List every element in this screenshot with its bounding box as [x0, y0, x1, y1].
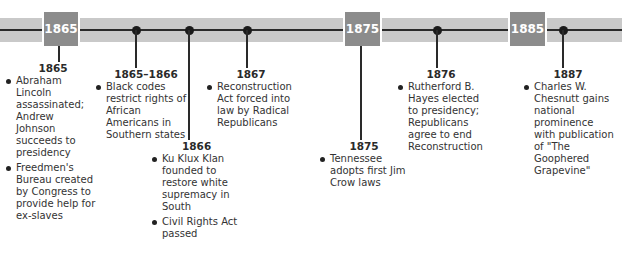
event-stem	[562, 30, 564, 68]
event-1865-1866: 1865–1866 Black codes restrict rights of…	[94, 68, 190, 144]
event-year: 1866	[178, 140, 238, 152]
event-item: Reconstruction Act forced into law by Ra…	[205, 81, 297, 129]
event-1876: 1876 Rutherford B. Hayes elected to pres…	[396, 68, 486, 156]
event-1865: 1865 Abraham Lincoln assassinated; Andre…	[4, 62, 96, 225]
event-stem	[360, 46, 362, 140]
event-item: Freedmen's Bureau created by Congress to…	[4, 162, 96, 222]
event-year: 1865–1866	[94, 68, 190, 80]
event-item: Charles W. Chesnutt gains national promi…	[522, 81, 614, 177]
event-year: 1876	[396, 68, 486, 80]
event-year: 1887	[522, 68, 614, 80]
event-year: 1865	[4, 62, 96, 74]
event-1887: 1887 Charles W. Chesnutt gains national …	[522, 68, 614, 180]
event-1867: 1867 Reconstruction Act forced into law …	[205, 68, 297, 132]
event-item: Abraham Lincoln assassinated; Andrew Joh…	[4, 75, 96, 159]
event-1866: 1866 Ku Klux Klan founded to restore whi…	[150, 140, 238, 243]
decade-marker-1885: 1885	[508, 12, 547, 46]
event-stem	[246, 30, 248, 68]
decade-marker-1875: 1875	[343, 12, 382, 46]
event-year: 1875	[318, 140, 408, 152]
event-stem	[58, 46, 60, 62]
event-item: Black codes restrict rights of African A…	[94, 81, 190, 141]
decade-marker-1865: 1865	[42, 12, 80, 46]
event-year: 1867	[205, 68, 297, 80]
event-stem	[436, 30, 438, 68]
event-item: Civil Rights Act passed	[150, 216, 238, 240]
event-stem	[135, 30, 137, 68]
event-1875: 1875 Tennessee adopts first Jim Crow law…	[318, 140, 408, 192]
event-item: Rutherford B. Hayes elected to presidenc…	[396, 81, 486, 153]
event-item: Tennessee adopts first Jim Crow laws	[318, 153, 408, 189]
event-item: Ku Klux Klan founded to restore white su…	[150, 153, 238, 213]
